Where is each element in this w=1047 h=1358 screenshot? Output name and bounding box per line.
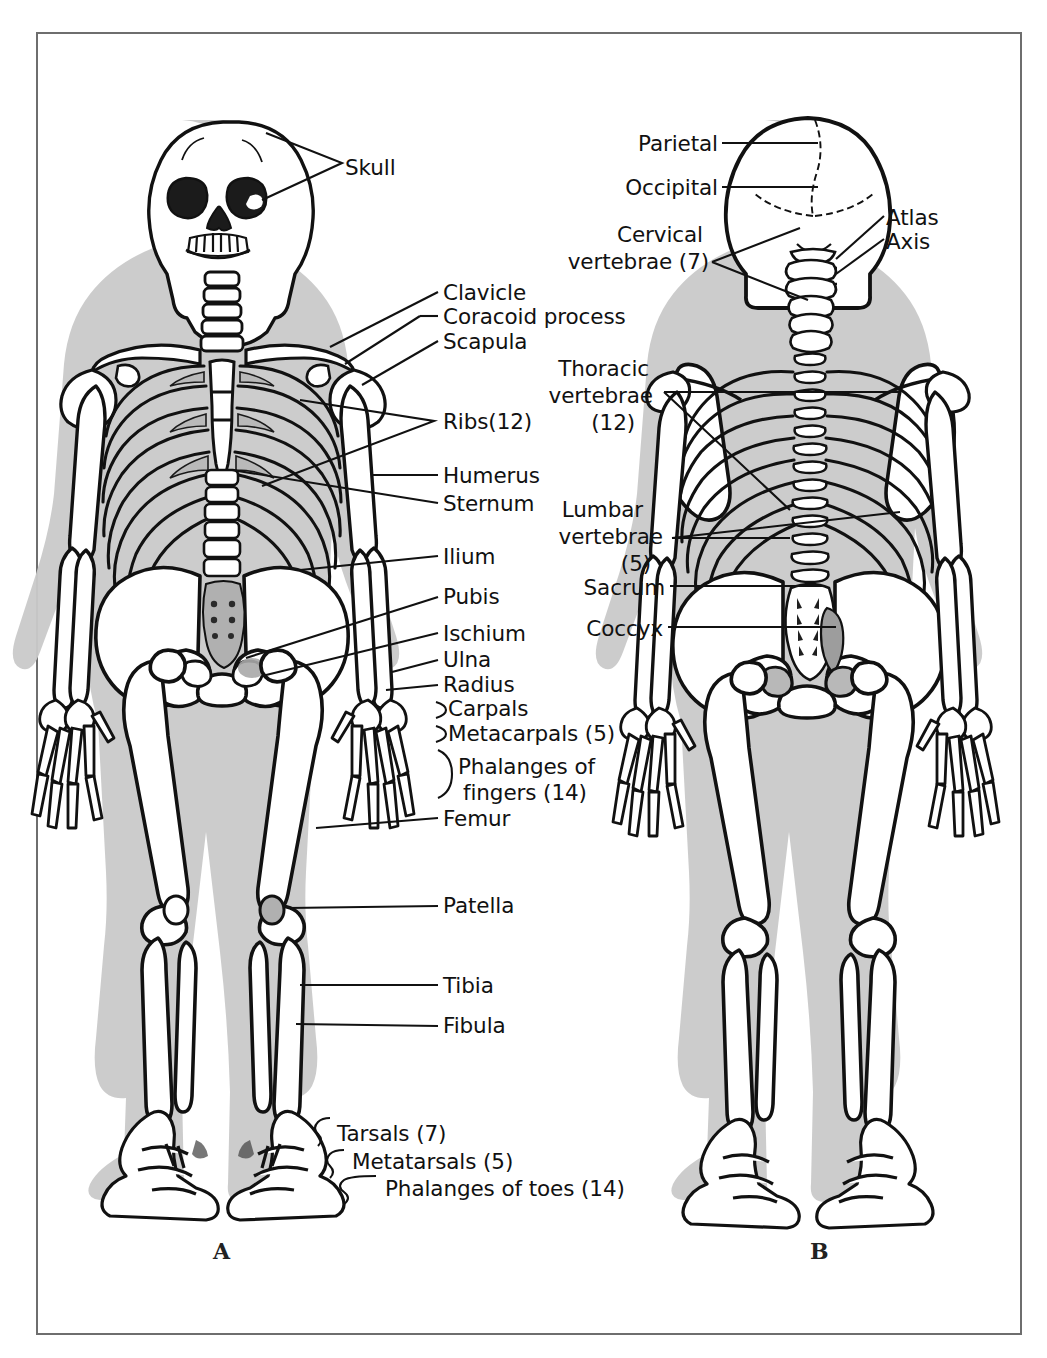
label-occipital: Occipital (625, 175, 718, 200)
label-lumbar-3: (5) (621, 551, 651, 576)
patella-left-icon (164, 896, 188, 924)
label-ulna: Ulna (443, 647, 491, 672)
label-phalanges-fingers-2: fingers (14) (463, 780, 587, 805)
label-lumbar-2: vertebrae (559, 524, 663, 549)
skeleton-figure-anterior (13, 120, 414, 1220)
label-thoracic-3: (12) (591, 410, 635, 435)
label-cervical-2: vertebrae (7) (568, 249, 709, 274)
label-fibula: Fibula (443, 1013, 506, 1038)
label-lumbar-1: Lumbar (562, 497, 643, 522)
label-ischium: Ischium (443, 621, 526, 646)
cervical-vertebrae-posterior (786, 249, 837, 352)
spine-anterior (204, 470, 240, 576)
hand-right-anterior (332, 700, 414, 828)
label-femur: Femur (443, 806, 510, 831)
figure-page: Skull Clavicle Coracoid process Scapula … (0, 0, 1047, 1358)
label-ribs: Ribs(12) (443, 409, 532, 434)
label-sacrum: Sacrum (584, 575, 665, 600)
label-thoracic-2: vertebrae (549, 383, 653, 408)
foot-left-anterior (102, 1111, 218, 1220)
label-coccyx: Coccyx (586, 616, 663, 641)
label-tibia: Tibia (443, 973, 494, 998)
cervical-vertebrae-anterior (201, 272, 243, 351)
pointer-metatarsals (327, 1150, 344, 1178)
leader-scapula (362, 341, 438, 385)
label-scapula: Scapula (443, 329, 527, 354)
pointer-phalanges-toes (340, 1176, 376, 1204)
teeth-icon (188, 233, 248, 256)
label-metacarpals: Metacarpals (5) (448, 721, 615, 746)
label-phalanges-toes: Phalanges of toes (14) (385, 1176, 625, 1201)
label-humerus: Humerus (443, 463, 540, 488)
label-carpals: Carpals (448, 696, 528, 721)
skeleton-figure-posterior (596, 118, 999, 1228)
brace-phalanges-fingers (438, 750, 452, 798)
label-coracoid-process: Coracoid process (443, 304, 626, 329)
panel-label-b: B (810, 1238, 829, 1264)
label-thoracic-1: Thoracic (558, 356, 649, 381)
label-clavicle: Clavicle (443, 280, 526, 305)
label-radius: Radius (443, 672, 515, 697)
leader-fibula (296, 1024, 438, 1026)
leader-radius (386, 685, 438, 690)
leader-ulna (392, 660, 438, 672)
label-axis: Axis (886, 229, 930, 254)
label-atlas: Atlas (886, 205, 939, 230)
orbit-left-icon (168, 178, 208, 218)
hand-right-posterior (917, 708, 999, 836)
label-phalanges-fingers-1: Phalanges of (458, 754, 595, 779)
label-pubis: Pubis (443, 584, 500, 609)
brace-metacarpals (436, 726, 446, 742)
label-parietal: Parietal (638, 131, 718, 156)
skeleton-illustration (0, 0, 1047, 1358)
brace-carpals (436, 702, 446, 718)
hand-left-posterior (613, 708, 695, 836)
label-metatarsals: Metatarsals (5) (352, 1149, 513, 1174)
label-tarsals: Tarsals (7) (337, 1121, 446, 1146)
label-patella: Patella (443, 893, 514, 918)
panel-label-a: A (213, 1238, 230, 1264)
label-skull: Skull (345, 155, 396, 180)
patella-right-icon (260, 896, 284, 924)
label-sternum: Sternum (443, 491, 534, 516)
orbit-right-icon (227, 178, 267, 218)
label-cervical-1: Cervical (617, 222, 703, 247)
label-ilium: Ilium (443, 544, 495, 569)
foot-left-posterior (683, 1119, 799, 1228)
leader-patella (288, 906, 438, 908)
